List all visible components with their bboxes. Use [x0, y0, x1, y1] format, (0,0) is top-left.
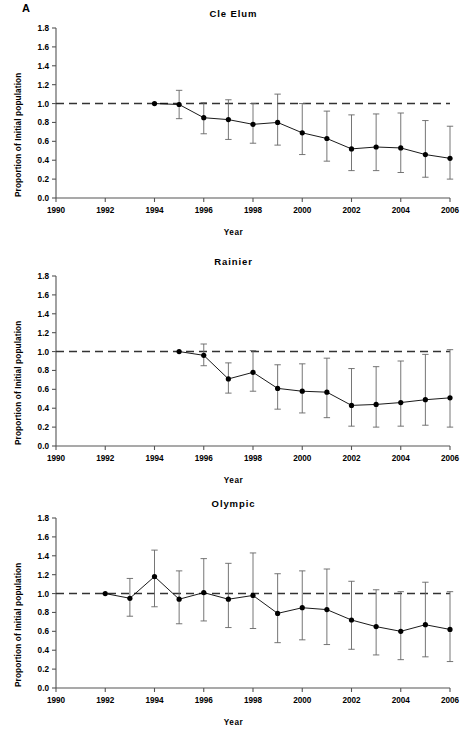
x-tick-label: 2006 — [441, 696, 460, 705]
error-bar — [373, 367, 379, 427]
error-bar — [447, 592, 453, 662]
data-point — [398, 629, 403, 634]
data-point — [349, 617, 354, 622]
plot-area: 0.00.20.40.60.81.01.21.41.61.81990199219… — [0, 248, 467, 463]
y-tick-label: 1.8 — [38, 514, 50, 523]
y-tick-label: 1.0 — [38, 100, 50, 109]
plot-area: 0.00.20.40.60.81.01.21.41.61.81990199219… — [0, 0, 467, 215]
chart-panel-olympic: Olympic Proportion of Initial population… — [0, 490, 467, 735]
y-tick-label: 0.2 — [38, 175, 50, 184]
error-bar — [299, 104, 305, 155]
error-bar — [274, 574, 280, 643]
error-bar — [422, 121, 428, 178]
x-tick-label: 1992 — [96, 206, 115, 215]
data-point — [374, 144, 379, 149]
series-line — [179, 352, 450, 406]
x-tick-label: 1996 — [195, 454, 214, 463]
y-tick-label: 0.0 — [38, 194, 50, 203]
y-tick-label: 0.6 — [38, 385, 50, 394]
y-tick-label: 0.4 — [38, 646, 50, 655]
data-point — [349, 403, 354, 408]
y-tick-label: 0.2 — [38, 423, 50, 432]
x-tick-label: 2002 — [342, 206, 361, 215]
y-tick-label: 0.0 — [38, 442, 50, 451]
error-bar — [447, 350, 453, 427]
data-point — [250, 370, 255, 375]
y-tick-label: 1.4 — [38, 552, 50, 561]
data-point — [152, 101, 157, 106]
figure-panel-a: A Cle Elum Proportion of Initial populat… — [0, 0, 467, 735]
error-bar — [299, 364, 305, 413]
data-point — [201, 590, 206, 595]
y-tick-label: 1.2 — [38, 571, 50, 580]
x-axis-label: Year — [0, 718, 467, 727]
error-bar — [398, 592, 404, 660]
y-tick-label: 0.0 — [38, 684, 50, 693]
y-tick-label: 0.8 — [38, 118, 50, 127]
y-tick-label: 0.6 — [38, 627, 50, 636]
x-tick-label: 2004 — [392, 696, 411, 705]
data-point — [201, 115, 206, 120]
y-tick-label: 1.4 — [38, 62, 50, 71]
x-tick-label: 2002 — [342, 696, 361, 705]
data-point — [374, 402, 379, 407]
data-point — [152, 574, 157, 579]
data-point — [275, 120, 280, 125]
x-tick-label: 1998 — [244, 206, 263, 215]
x-axis-label: Year — [0, 228, 467, 237]
x-tick-label: 1992 — [96, 454, 115, 463]
y-tick-label: 0.6 — [38, 137, 50, 146]
data-point — [201, 353, 206, 358]
y-tick-label: 0.4 — [38, 156, 50, 165]
y-tick-label: 1.0 — [38, 348, 50, 357]
x-tick-label: 1990 — [47, 454, 66, 463]
data-point — [177, 349, 182, 354]
x-tick-label: 2000 — [293, 696, 312, 705]
data-point — [374, 624, 379, 629]
x-tick-label: 1992 — [96, 696, 115, 705]
data-point — [300, 130, 305, 135]
x-tick-label: 2002 — [342, 454, 361, 463]
y-tick-label: 1.6 — [38, 291, 50, 300]
x-tick-label: 1994 — [145, 206, 164, 215]
data-point — [177, 597, 182, 602]
y-tick-label: 1.8 — [38, 272, 50, 281]
x-tick-label: 1994 — [145, 454, 164, 463]
x-tick-label: 1994 — [145, 696, 164, 705]
data-point — [423, 622, 428, 627]
error-bar — [447, 126, 453, 179]
data-point — [226, 597, 231, 602]
y-tick-label: 1.6 — [38, 43, 50, 52]
data-point — [349, 146, 354, 151]
x-tick-label: 2006 — [441, 206, 460, 215]
error-bar — [398, 361, 404, 426]
data-point — [250, 593, 255, 598]
data-point — [324, 390, 329, 395]
data-point — [300, 389, 305, 394]
x-tick-label: 1990 — [47, 696, 66, 705]
data-point — [250, 122, 255, 127]
x-tick-label: 2000 — [293, 206, 312, 215]
y-tick-label: 1.6 — [38, 533, 50, 542]
error-bar — [201, 559, 207, 621]
y-tick-label: 0.8 — [38, 608, 50, 617]
chart-panel-rainier: Rainier Proportion of Initial population… — [0, 248, 467, 493]
y-tick-label: 1.2 — [38, 329, 50, 338]
x-tick-label: 2004 — [392, 454, 411, 463]
data-point — [226, 117, 231, 122]
x-tick-label: 2004 — [392, 206, 411, 215]
data-point — [127, 596, 132, 601]
error-bar — [225, 563, 231, 627]
error-bar — [348, 115, 354, 171]
error-bar — [324, 569, 330, 645]
data-point — [300, 605, 305, 610]
x-tick-label: 2006 — [441, 454, 460, 463]
error-bar — [274, 94, 280, 145]
x-tick-label: 1998 — [244, 696, 263, 705]
x-tick-label: 2000 — [293, 454, 312, 463]
error-bar — [373, 114, 379, 171]
y-tick-label: 0.8 — [38, 366, 50, 375]
data-point — [177, 102, 182, 107]
error-bar — [324, 358, 330, 418]
error-bar — [398, 113, 404, 173]
